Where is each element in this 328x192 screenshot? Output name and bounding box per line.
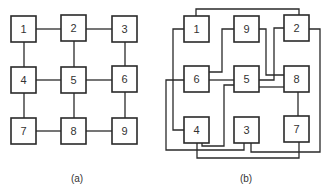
svg-text:6: 6 xyxy=(121,73,127,85)
svg-text:2: 2 xyxy=(293,22,299,34)
node-a-3: 3 xyxy=(112,16,137,42)
svg-text:4: 4 xyxy=(20,74,26,86)
diagram-a-nodes: 1 2 3 4 5 6 7 8 9 xyxy=(11,15,137,144)
caption-b: (b) xyxy=(240,173,252,184)
node-a-2: 2 xyxy=(61,15,86,41)
svg-text:8: 8 xyxy=(70,125,76,137)
svg-text:6: 6 xyxy=(193,73,199,85)
wire-b-2-5 xyxy=(259,28,284,80)
node-b-3: 3 xyxy=(234,117,259,143)
node-a-9: 9 xyxy=(112,118,137,144)
svg-text:1: 1 xyxy=(20,23,26,35)
node-a-6: 6 xyxy=(112,66,137,92)
node-a-7: 7 xyxy=(11,118,36,144)
node-a-4: 4 xyxy=(11,67,36,93)
node-b-7: 7 xyxy=(284,116,309,142)
node-b-9: 9 xyxy=(234,16,259,42)
node-a-5: 5 xyxy=(61,67,86,93)
svg-text:4: 4 xyxy=(193,124,199,136)
node-b-4: 4 xyxy=(184,117,209,143)
wire-b-9-6 xyxy=(209,29,234,72)
node-b-1: 1 xyxy=(184,16,209,42)
svg-text:8: 8 xyxy=(293,73,299,85)
node-a-1: 1 xyxy=(11,16,36,42)
node-b-5: 5 xyxy=(234,66,259,92)
svg-text:3: 3 xyxy=(121,23,127,35)
node-b-2: 2 xyxy=(284,15,309,41)
wire-b-9-8 xyxy=(259,29,284,75)
svg-text:2: 2 xyxy=(70,22,76,34)
svg-text:9: 9 xyxy=(243,23,249,35)
svg-text:3: 3 xyxy=(243,124,249,136)
svg-text:7: 7 xyxy=(293,123,299,135)
node-b-6: 6 xyxy=(184,66,209,92)
caption-a: (a) xyxy=(71,173,83,184)
svg-text:9: 9 xyxy=(121,125,127,137)
svg-text:5: 5 xyxy=(70,74,76,86)
node-b-8: 8 xyxy=(284,66,309,92)
diagram-b-nodes: 1 9 2 6 5 8 4 3 7 xyxy=(184,15,309,143)
svg-text:1: 1 xyxy=(193,23,199,35)
svg-text:5: 5 xyxy=(243,73,249,85)
diagram-canvas: 1 2 3 4 5 6 7 8 9 (a) 1 9 2 6 5 8 4 3 7 … xyxy=(0,0,328,192)
svg-text:7: 7 xyxy=(20,125,26,137)
node-a-8: 8 xyxy=(61,118,86,144)
